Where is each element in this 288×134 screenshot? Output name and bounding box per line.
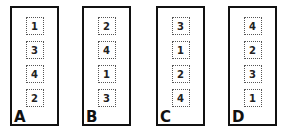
card: 1 bbox=[172, 41, 190, 59]
card: 3 bbox=[244, 65, 262, 83]
card: 1 bbox=[26, 17, 44, 35]
card: 3 bbox=[26, 41, 44, 59]
card: 4 bbox=[26, 65, 44, 83]
panel-label: C bbox=[160, 109, 171, 125]
card: 1 bbox=[98, 65, 116, 83]
card-stack: 2 4 1 3 bbox=[98, 17, 116, 107]
panel-c: 3 1 2 4 C bbox=[156, 6, 205, 126]
card: 3 bbox=[172, 17, 190, 35]
card: 2 bbox=[98, 17, 116, 35]
card-stack: 4 2 3 1 bbox=[244, 17, 262, 107]
card: 2 bbox=[244, 41, 262, 59]
card: 4 bbox=[244, 17, 262, 35]
panel-label: A bbox=[14, 109, 26, 125]
card: 3 bbox=[98, 89, 116, 107]
card-stack: 3 1 2 4 bbox=[172, 17, 190, 107]
panel-b: 2 4 1 3 B bbox=[82, 6, 131, 126]
panel-d: 4 2 3 1 D bbox=[228, 6, 277, 126]
card: 2 bbox=[172, 65, 190, 83]
card: 4 bbox=[98, 41, 116, 59]
card: 2 bbox=[26, 89, 44, 107]
card-stack: 1 3 4 2 bbox=[26, 17, 44, 107]
panel-a: 1 3 4 2 A bbox=[10, 6, 59, 126]
card: 4 bbox=[172, 89, 190, 107]
card: 1 bbox=[244, 89, 262, 107]
panel-label: D bbox=[232, 109, 244, 125]
panel-label: B bbox=[86, 109, 97, 125]
